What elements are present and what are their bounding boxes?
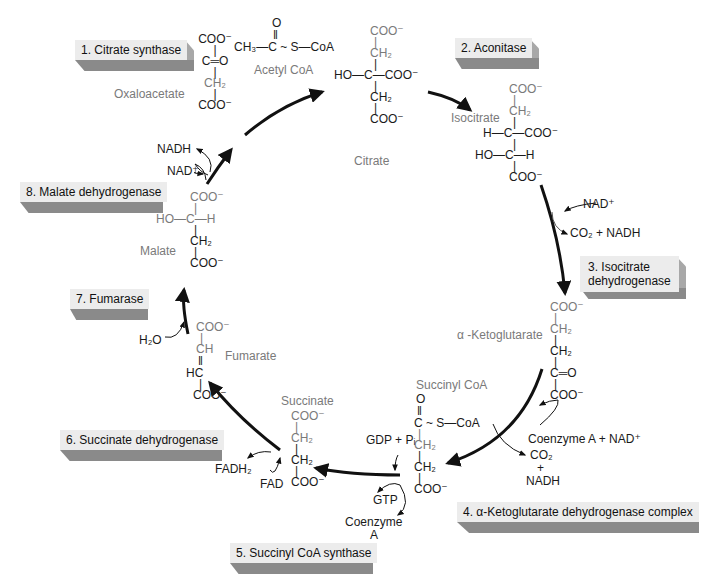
step5-coenzyme-a-out: A	[370, 528, 378, 542]
step4-nadh-out: NADH	[526, 474, 560, 488]
alpha-ketoglutarate-label: α -Ketoglutarate	[457, 328, 543, 342]
step3-nad-in: NAD⁺	[583, 197, 615, 211]
malate-structure: COO⁻ | HO—C—H | CH₂ | COO⁻	[156, 190, 236, 270]
step4-plus: +	[537, 461, 544, 475]
step8-nad-in: NAD⁺	[167, 164, 199, 178]
fumarate-structure: COO⁻ | CH ‖ HC | COO⁻	[186, 320, 236, 402]
step3-co2-nadh-out: CO₂ + NADH	[570, 226, 640, 240]
succinate-structure: COO⁻ | CH₂ | CH₂ | COO⁻	[291, 409, 341, 489]
enzyme-malate-dehydrogenase: 8. Malate dehydrogenase	[20, 182, 167, 202]
step4-coa-nad-in: Coenzyme A + NAD⁺	[528, 432, 641, 446]
oxaloacetate-structure: COO⁻ | C═O | CH₂ | COO⁻	[195, 32, 235, 112]
step6-fadh2-out: FADH₂	[215, 462, 252, 476]
citrate-structure: COO⁻ | CH₂ | HO—C—COO⁻ | CH₂ | COO⁻	[330, 24, 430, 126]
step5-gtp-out: GTP	[373, 493, 398, 507]
step5-gdp-pi-in: GDP + Pᵢ	[366, 433, 415, 447]
isocitrate-structure: COO⁻ | CH₂ | H—C—COO⁻ | HO—C—H | COO⁻	[475, 82, 575, 184]
succinyl-coa-structure: O ‖ C ~ S—CoA | CH₂ | CH₂ | COO⁻	[414, 392, 504, 496]
oxaloacetate-label: Oxaloacetate	[114, 87, 185, 101]
succinate-label: Succinate	[281, 394, 334, 408]
enzyme-isocitrate-dehydrogenase: 3. Isocitrate dehydrogenase	[580, 256, 679, 292]
enzyme-fumarase: 7. Fumarase	[70, 289, 149, 309]
step5-coenzyme-out: Coenzyme	[345, 515, 402, 529]
step4-co2-out: CO₂	[530, 448, 553, 462]
succinyl-coa-label: Succinyl CoA	[416, 378, 487, 392]
arrow-citrate-to-isocitrate	[428, 92, 470, 110]
acetyl-coa-label: Acetyl CoA	[254, 63, 313, 77]
arrow-oxaloacetate-to-citrate	[245, 92, 322, 135]
enzyme-citrate-synthase: 1. Citrate synthase	[75, 40, 187, 60]
enzyme-succinate-dehydrogenase: 6. Succinate dehydrogenase	[60, 430, 224, 450]
step7-water-in: H₂O	[139, 333, 162, 347]
citrate-label: Citrate	[354, 154, 389, 168]
alpha-ketoglutarate-structure: COO⁻ | CH₂ | CH₂ | C═O | COO⁻	[550, 300, 600, 402]
enzyme-aconitase: 2. Aconitase	[455, 38, 532, 58]
acetyl-coa-structure: O ‖ CH₃—C ~ S—CoA	[234, 16, 334, 54]
step6-fad-in: FAD	[260, 477, 283, 491]
enzyme-succinyl-coa-synthase: 5. Succinyl CoA synthase	[230, 543, 377, 563]
enzyme-alpha-ketoglutarate-dehydrogenase-complex: 4. α-Ketoglutarate dehydrogenase complex	[457, 502, 699, 522]
arrow-isocitrate-to-ketoglutarate	[541, 185, 565, 293]
step8-nadh-out: NADH	[157, 142, 191, 156]
